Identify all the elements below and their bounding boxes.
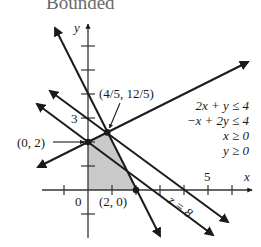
origin-label: 0 — [75, 194, 82, 209]
y-axis — [81, 24, 95, 238]
constraint-1: 2x + y ≤ 4 — [196, 98, 250, 113]
y-tick-label-3: 3 — [71, 111, 78, 126]
vertex-label-0-2: (0, 2) — [17, 135, 45, 150]
vertex-label-4-5-12-5: (4/5, 12/5) — [99, 86, 154, 101]
constraint-2: −x + 2y ≤ 4 — [187, 113, 250, 128]
pointer-arrow-4-5-12-5 — [110, 103, 121, 128]
y-axis-label: y — [72, 20, 80, 35]
graph-title: Bounded — [46, 0, 115, 13]
vertex-label-2-0: (2, 0) — [99, 194, 127, 209]
constraint-list: 2x + y ≤ 4 −x + 2y ≤ 4 x ≥ 0 y ≥ 0 — [187, 98, 250, 158]
vertex-dot-0-2 — [85, 139, 92, 146]
vertex-dot-4-5-12-5 — [104, 129, 111, 136]
constraint-4: y ≥ 0 — [221, 143, 249, 158]
vertex-dot-2-0 — [133, 187, 140, 194]
x-tick-label-5: 5 — [204, 169, 211, 184]
constraint-3: x ≥ 0 — [222, 128, 249, 143]
lp-graph-figure: Bounded y x 0 5 3 (0, 2) (4/5, 12/5) — [0, 0, 261, 247]
x-axis-label: x — [243, 169, 250, 184]
